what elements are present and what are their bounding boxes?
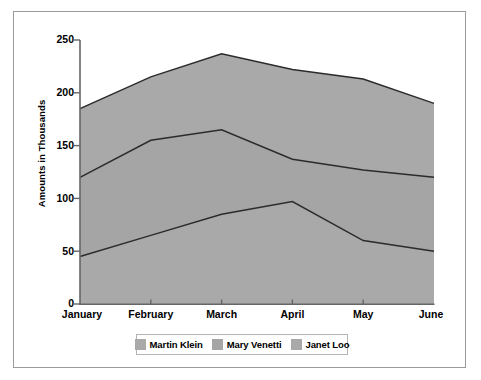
legend-swatch-icon-martin-klein — [135, 339, 146, 350]
y-tick-0: 0 — [44, 298, 74, 308]
legend-label-mary-venetti: Mary Venetti — [227, 339, 282, 350]
y-tick-100: 100 — [44, 193, 74, 203]
x-tick-may: May — [353, 308, 373, 320]
legend-label-martin-klein: Martin Klein — [150, 339, 203, 350]
x-tick-april: April — [280, 308, 304, 320]
y-axis-ticks — [74, 40, 80, 304]
y-tick-50: 50 — [44, 246, 74, 256]
legend-item-mary-venetti: Mary Venetti — [212, 339, 282, 350]
x-axis-tick-labels: January February March April May June — [0, 308, 481, 324]
chart-page: Amounts in Thousands 250 200 150 100 50 … — [0, 0, 481, 380]
y-tick-250: 250 — [44, 34, 74, 44]
x-tick-march: March — [206, 308, 237, 320]
y-tick-200: 200 — [44, 87, 74, 97]
x-tick-january: January — [62, 308, 102, 320]
legend-swatch-icon-mary-venetti — [212, 339, 223, 350]
x-tick-february: February — [128, 308, 173, 320]
y-axis-tick-labels: 250 200 150 100 50 0 — [42, 0, 74, 320]
area-chart-figure: Amounts in Thousands 250 200 150 100 50 … — [0, 0, 481, 380]
chart-legend: Martin Klein Mary Venetti Janet Loo — [136, 334, 348, 355]
legend-label-janet-loo: Janet Loo — [306, 339, 350, 350]
x-tick-june: June — [419, 308, 444, 320]
legend-swatch-icon-janet-loo — [291, 339, 302, 350]
y-tick-150: 150 — [44, 140, 74, 150]
legend-item-janet-loo: Janet Loo — [291, 339, 350, 350]
legend-item-martin-klein: Martin Klein — [135, 339, 203, 350]
